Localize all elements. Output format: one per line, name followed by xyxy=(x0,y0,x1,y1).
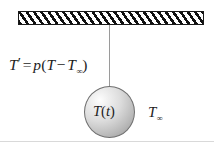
sphere-label-close-paren: ) xyxy=(110,103,115,119)
equation-infinity-subscript: ∞ xyxy=(76,66,82,76)
equation-lhs-symbol: T xyxy=(9,56,18,73)
cooling-diagram-figure: T′=p(T−T∞) T(t) T∞ xyxy=(0,0,214,142)
ambient-temperature-label: T∞ xyxy=(148,105,162,120)
bottom-divider xyxy=(0,141,214,142)
ambient-label-symbol: T xyxy=(148,104,156,120)
hatched-ceiling-support xyxy=(18,11,204,25)
equation-close-paren: ) xyxy=(82,56,87,73)
equation-coefficient: p xyxy=(33,56,41,73)
suspension-string xyxy=(109,25,110,87)
sphere-temperature-label: T(t) xyxy=(93,104,115,119)
equation-ambient-temperature: T xyxy=(67,56,76,73)
equation-prime-mark: ′ xyxy=(18,55,21,71)
sphere-label-symbol: T xyxy=(93,103,101,119)
ambient-label-infinity-subscript: ∞ xyxy=(157,114,163,123)
cooling-law-equation: T′=p(T−T∞) xyxy=(9,57,88,73)
equation-equals-sign: = xyxy=(21,56,33,73)
equation-minus-sign: − xyxy=(55,56,67,73)
